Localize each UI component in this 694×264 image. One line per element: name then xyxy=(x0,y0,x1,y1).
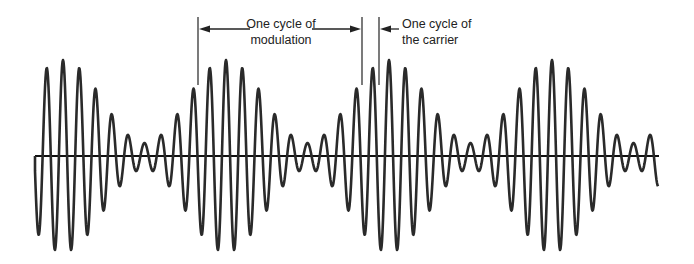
modulation-label-line1: One cycle of xyxy=(236,16,326,32)
arrowhead-left-icon xyxy=(199,26,210,33)
modulation-label: One cycle of modulation xyxy=(236,16,326,48)
carrier-label-line2: the carrier xyxy=(402,32,471,48)
carrier-label: One cycle of the carrier xyxy=(402,16,471,48)
carrier-label-line1: One cycle of xyxy=(402,16,471,32)
arrowhead-left-icon xyxy=(380,26,391,33)
arrowhead-right-icon xyxy=(350,26,361,33)
modulated-waveform xyxy=(35,60,658,250)
carrier-cycle-marker xyxy=(379,17,399,85)
am-wave-diagram xyxy=(0,0,694,264)
modulation-label-line2: modulation xyxy=(236,32,326,48)
